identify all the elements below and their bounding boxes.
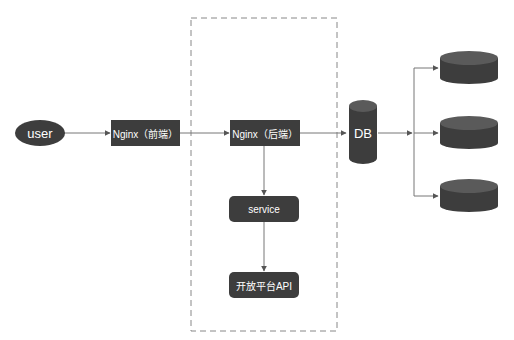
nginx-front-node[interactable] (111, 120, 180, 146)
nginx-back-node[interactable] (230, 120, 300, 146)
open-api-node[interactable] (229, 272, 299, 298)
db-replica-1-node[interactable] (440, 51, 498, 84)
architecture-diagram (0, 0, 514, 340)
db-replica-2-node[interactable] (440, 116, 498, 149)
user-node[interactable] (15, 120, 65, 146)
service-node[interactable] (229, 196, 299, 222)
db-replica-3-node[interactable] (440, 179, 498, 212)
db-node[interactable] (349, 100, 377, 164)
